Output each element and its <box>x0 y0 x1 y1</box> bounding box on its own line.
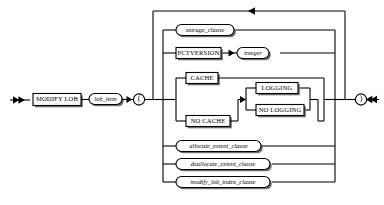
node-lob-item-label: lob_item <box>94 95 117 102</box>
node-storage-clause[interactable]: storage_clause <box>176 25 236 38</box>
node-close-paren-label: ) <box>360 94 363 103</box>
node-pctversion[interactable]: PCTVERSION <box>176 48 223 61</box>
node-modify-lob[interactable]: MODIFY LOB <box>33 94 83 108</box>
node-pctversion-label: PCTVERSION <box>177 49 219 56</box>
node-storage-clause-label: storage_clause <box>186 26 225 33</box>
node-lob-item[interactable]: lob_item <box>89 94 124 107</box>
node-no-logging[interactable]: NO LOGGING <box>256 105 306 118</box>
rail-nocache-to-logging <box>230 96 246 121</box>
node-logging[interactable]: LOGGING <box>256 83 300 96</box>
node-close-paren[interactable]: ) <box>355 94 366 105</box>
node-logging-label: LOGGING <box>261 84 292 91</box>
node-cache[interactable]: CACHE <box>186 73 220 86</box>
node-modify-lob-label: MODIFY LOB <box>36 95 79 102</box>
node-modify-lob-index-clause[interactable]: modify_lob_index_clause <box>176 177 272 190</box>
node-open-paren[interactable]: ( <box>133 94 144 105</box>
end-terminator <box>366 96 379 104</box>
node-no-cache[interactable]: NO CACHE <box>186 116 232 129</box>
node-no-logging-label: NO LOGGING <box>259 106 302 113</box>
branch-cache-group <box>163 78 186 121</box>
node-allocate-extent-clause-label: allocate_extent_clause <box>189 142 248 149</box>
node-deallocate-extent-clause-label: deallocate_extent_clause <box>191 160 256 167</box>
node-allocate-extent-clause[interactable]: allocate_extent_clause <box>176 141 263 154</box>
node-modify-lob-index-clause-label: modify_lob_index_clause <box>190 178 255 185</box>
node-deallocate-extent-clause[interactable]: deallocate_extent_clause <box>176 159 272 172</box>
node-cache-label: CACHE <box>190 74 213 81</box>
railroad-diagram-svg: MODIFY LOB lob_item ( <box>0 0 384 205</box>
node-no-cache-label: NO CACHE <box>191 117 226 124</box>
syntax-diagram-canvas: MODIFY LOB lob_item ( <box>0 0 384 205</box>
node-integer[interactable]: integer <box>237 48 271 61</box>
branch-rail-right <box>335 30 345 182</box>
node-integer-label: integer <box>244 49 263 56</box>
node-open-paren-label: ( <box>138 94 141 103</box>
start-terminator <box>10 96 30 104</box>
